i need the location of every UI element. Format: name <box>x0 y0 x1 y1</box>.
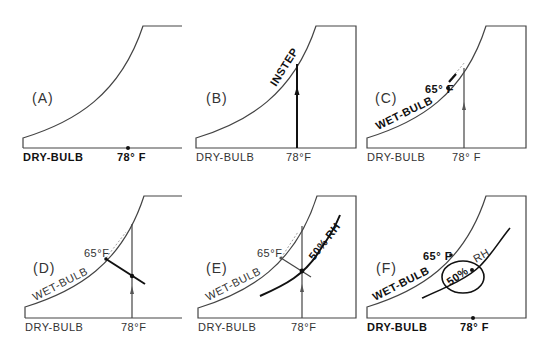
arrow-up-icon <box>295 86 300 95</box>
panel-f: (F) 65° F WET-BULB 50% RH DRY-BULB 78° F <box>367 196 526 333</box>
chart-outline <box>23 26 182 148</box>
point-label: 65°F <box>84 247 109 259</box>
temp-label: 78°F <box>286 151 311 163</box>
state-point <box>300 269 305 274</box>
x-axis-label: DRY-BULB <box>25 321 83 333</box>
point-label: 65° F <box>423 250 452 262</box>
temp-label: 78° F <box>460 321 489 333</box>
temp-label: 78° F <box>452 151 481 163</box>
panel-b: (B) INSTEP DRY-BULB 78°F <box>196 26 356 163</box>
rh-label: 50% RH <box>306 220 343 262</box>
rh-label: RH <box>471 246 492 265</box>
temp-label: 78° F <box>117 151 146 163</box>
arrow-up-icon <box>300 284 304 292</box>
panel-letter: (C) <box>375 90 397 106</box>
temp-label: 78°F <box>121 321 146 333</box>
panel-letter: (E) <box>206 260 228 276</box>
dry-bulb-point <box>471 316 475 320</box>
panel-letter: (B) <box>206 90 228 106</box>
wet-bulb-line <box>106 259 145 284</box>
state-point <box>470 268 474 272</box>
x-axis-label: DRY-BULB <box>196 151 254 163</box>
wet-bulb-arrow <box>449 74 456 82</box>
panel-letter: (D) <box>33 260 55 276</box>
point-label: 65° F <box>425 83 454 95</box>
panel-c: (C) 65° F WET-BULB DRY-BULB 78° F <box>367 26 526 163</box>
arrow-up-icon <box>130 286 134 294</box>
x-axis-label: DRY-BULB <box>367 151 425 163</box>
dry-bulb-point <box>126 146 130 150</box>
panel-d: (D) 65°F WET-BULB DRY-BULB 78°F <box>25 196 182 333</box>
temp-label: 78°F <box>291 321 316 333</box>
arrow-up-icon <box>462 102 466 110</box>
x-axis-label: DRY-BULB <box>198 321 256 333</box>
curve-label: INSTEP <box>268 45 301 88</box>
panel-a: (A) DRY-BULB 78° F <box>23 26 182 163</box>
panel-letter: (F) <box>376 260 397 276</box>
x-axis-label: DRY-BULB <box>23 151 83 163</box>
dashed-saturation <box>281 232 298 258</box>
panel-e: (E) 65°F WET-BULB 50% RH DRY-BULB 78°F <box>198 196 356 333</box>
state-point <box>130 274 134 278</box>
rh-percent-label: 50% <box>444 264 470 287</box>
x-axis-label: DRY-BULB <box>367 321 427 333</box>
point-label: 65°F <box>257 247 282 259</box>
panel-letter: (A) <box>32 90 54 106</box>
